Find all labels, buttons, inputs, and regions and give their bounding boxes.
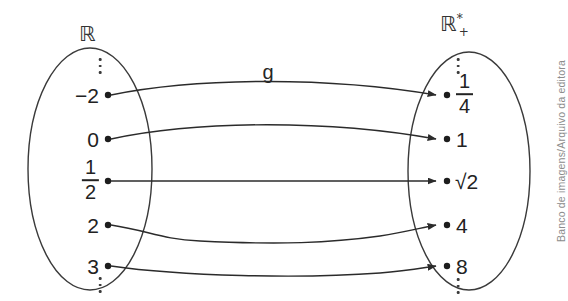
codomain-element-four: 4 (456, 215, 468, 236)
domain-dot (105, 92, 111, 98)
function-label-g: g (262, 61, 273, 84)
codomain-element-sqrt2: √2 (455, 171, 478, 192)
domain-dot (105, 222, 111, 228)
domain-set-label: ℝ (79, 24, 96, 45)
fraction-denominator: 2 (82, 182, 99, 203)
image-credit: Banco de imagens/Arquivo da editora (555, 59, 567, 241)
codomain-bottom-ellipsis (457, 278, 460, 294)
domain-element-zero: 0 (87, 129, 99, 150)
codomain-dot (444, 92, 450, 98)
fraction-one-fourth: 1 4 (456, 71, 473, 117)
mapping-arrow-5 (111, 266, 436, 276)
codomain-superscript: * (457, 12, 463, 26)
domain-element-two: 2 (87, 215, 99, 236)
codomain-subscript: + (459, 25, 469, 39)
codomain-dot (444, 136, 450, 142)
domain-top-ellipsis (99, 58, 102, 74)
codomain-element-one: 1 (456, 129, 468, 150)
domain-element-one-half: 1 2 (82, 158, 99, 204)
fraction-one-half: 1 2 (82, 157, 99, 203)
mapping-arrow-4 (111, 225, 436, 243)
codomain-dot (444, 178, 450, 184)
codomain-dot (444, 263, 450, 269)
domain-bottom-ellipsis (99, 277, 102, 293)
fraction-denominator: 4 (456, 96, 473, 117)
codomain-dot (444, 222, 450, 228)
mapping-diagram: ℝ ℝ*+ −2 0 1 2 2 3 1 4 1 √2 4 8 g (0, 0, 568, 301)
mapping-arrow-2 (111, 125, 436, 139)
codomain-element-one-fourth: 1 4 (456, 72, 473, 118)
codomain-element-eight: 8 (456, 256, 468, 277)
fraction-numerator: 1 (456, 71, 473, 92)
domain-element-minus2: −2 (75, 85, 99, 106)
mapping-arrow-1 (111, 82, 436, 96)
fraction-numerator: 1 (82, 157, 99, 178)
domain-element-three: 3 (87, 256, 99, 277)
domain-set-symbol: ℝ (79, 22, 96, 46)
codomain-set-symbol: ℝ (440, 12, 457, 36)
domain-dot (105, 136, 111, 142)
domain-dot (105, 263, 111, 269)
domain-dot (105, 178, 111, 184)
codomain-set-label: ℝ*+ (440, 14, 469, 35)
